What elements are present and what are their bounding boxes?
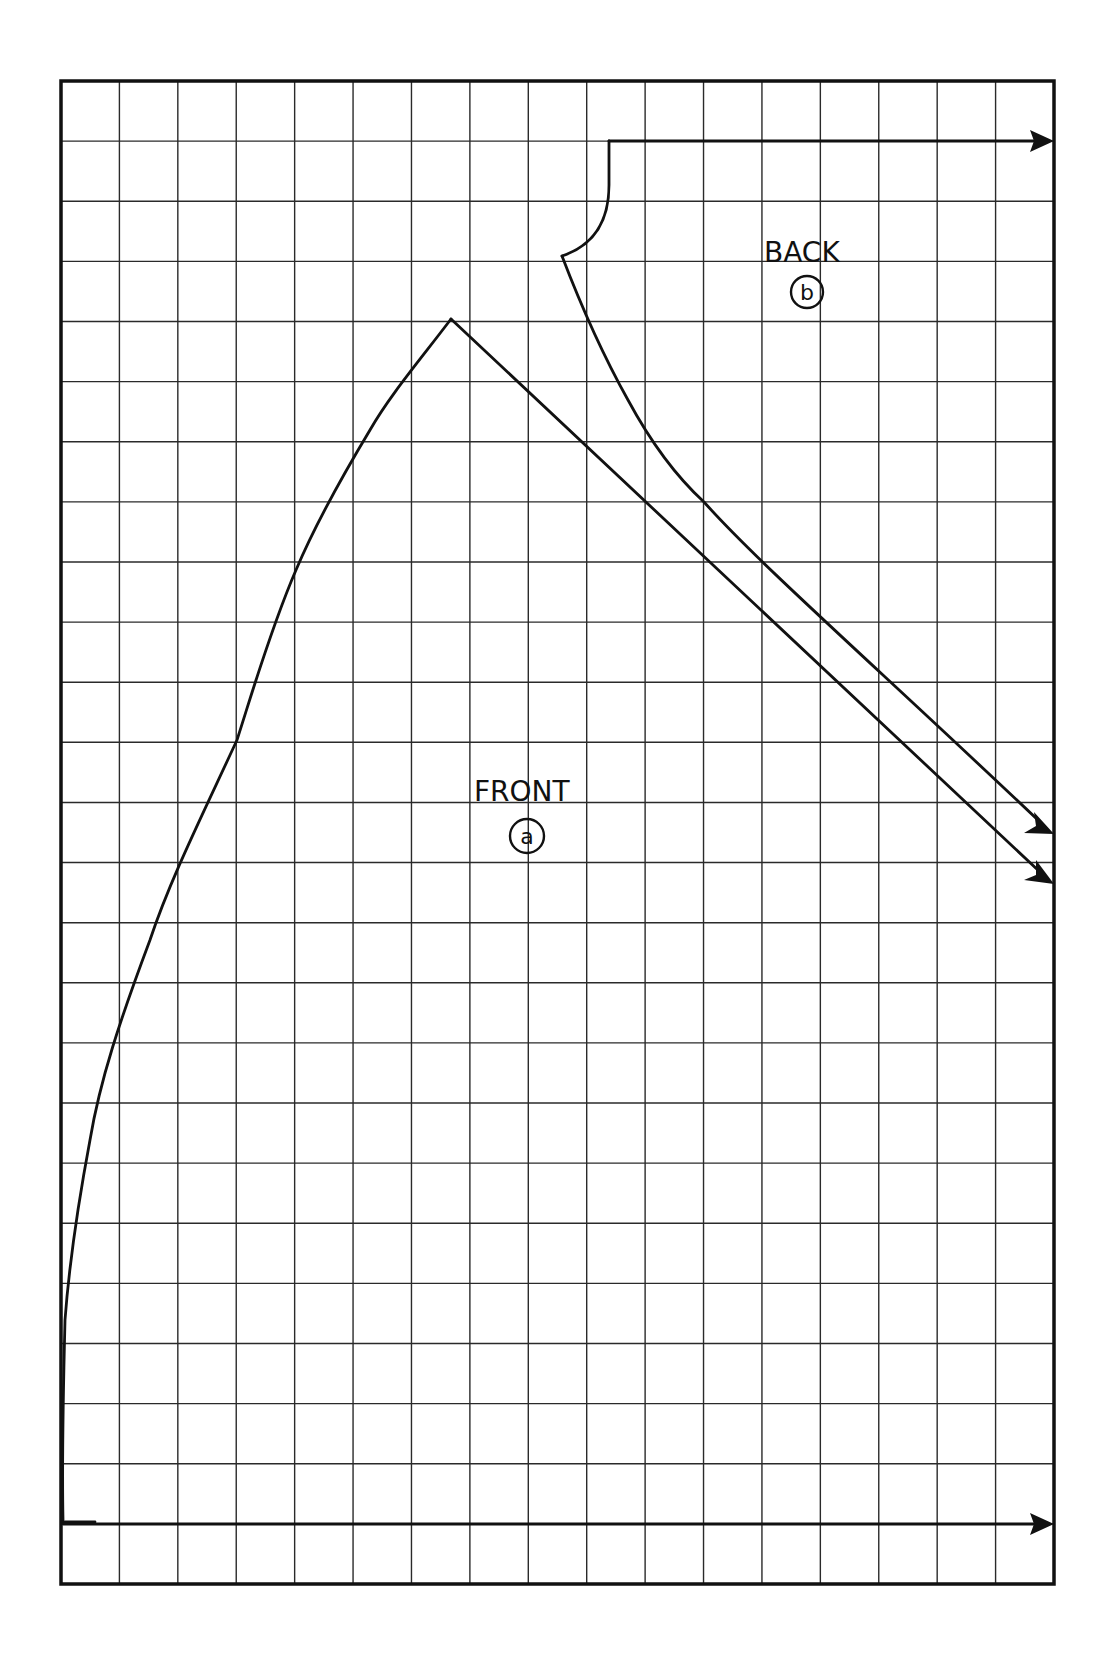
arrow-head-icon bbox=[1024, 812, 1054, 834]
front-label: FRONT bbox=[474, 775, 571, 808]
back-badge: b bbox=[800, 280, 814, 305]
front-piece-outline bbox=[63, 319, 1054, 1520]
grid bbox=[61, 81, 1054, 1584]
arrow-head-icon bbox=[1024, 860, 1054, 884]
top-arrow bbox=[609, 130, 1054, 152]
back-label: BACK bbox=[764, 236, 840, 269]
pattern-diagram: BACK b FRONT a bbox=[0, 0, 1116, 1663]
outer-border bbox=[61, 81, 1054, 1584]
front-label-group: FRONT a bbox=[474, 775, 571, 853]
front-badge: a bbox=[520, 824, 533, 849]
back-label-group: BACK b bbox=[764, 236, 840, 308]
bottom-arrow bbox=[63, 1513, 1054, 1535]
